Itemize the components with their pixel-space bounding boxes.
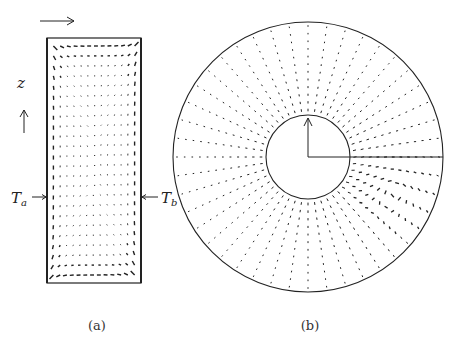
z-axis-label: z <box>16 74 25 92</box>
rotation-arrow-icon <box>40 17 74 25</box>
panel-b-annulus-section: (b) <box>173 22 443 333</box>
caption-b: (b) <box>301 318 319 333</box>
panel-a-cavity-section: z Ta Tb (a) <box>11 17 177 333</box>
left-wall-temperature-label: Ta <box>11 189 46 208</box>
caption-a: (a) <box>88 318 106 333</box>
right-wall-temperature-label: Tb <box>142 189 177 208</box>
right-wall-arrow-icon <box>142 195 158 200</box>
z-up-arrow-icon <box>20 110 28 133</box>
cavity-boundary <box>47 38 141 283</box>
panel-a-vector-field <box>50 42 139 279</box>
figure: z Ta Tb (a) (b) <box>0 0 455 348</box>
tb-label: Tb <box>161 189 177 208</box>
ta-label: Ta <box>11 189 27 208</box>
left-wall-arrow-icon <box>32 195 46 200</box>
